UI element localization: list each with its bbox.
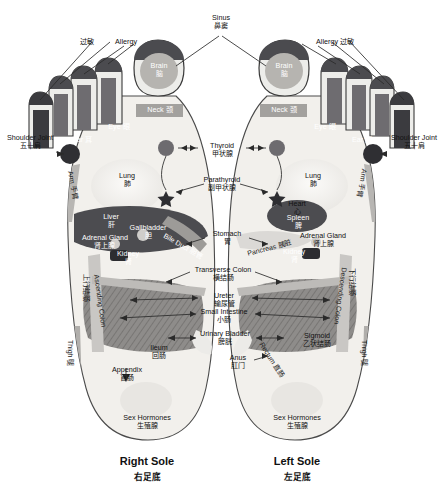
label-left-neck: Neck 颈 [264,106,304,114]
label-right-eye: Eye 眼 [102,123,136,131]
label-right-ascending-colon-cn: 上行结肠 [82,274,92,302]
label-left-sigmoid: Sigmoid乙状结肠 [290,332,344,349]
label-left-spleen: Spleen脾 [280,214,316,231]
right-thyroid-dot [158,140,174,156]
caption-left-sole: Left Sole左足底 [242,455,352,482]
label-transverse-colon: Transverse Colon横结肠 [185,266,261,283]
label-allergy-left: Allergy [104,38,148,46]
label-right-brain: Brain脑 [141,62,177,79]
label-right-appendix: Appendix盲肠 [104,366,150,383]
label-left-thigh: Thigh 腿 [360,340,370,366]
label-left-ear: Ear 耳 [346,136,378,144]
caption-right-sole: Right Sole右足底 [92,455,202,482]
label-parathyroid: Parathyroid副甲状腺 [192,176,252,193]
reflexology-foot-chart [0,0,443,504]
label-thyroid: Thyroid甲状腺 [198,142,246,159]
label-left-eye: Eye 眼 [308,123,342,131]
label-left-lung: Lung肺 [294,172,332,189]
label-stomach: Stomach胃 [204,230,250,247]
label-right-thigh: Thigh 腿 [66,340,76,366]
label-urinary-bladder: Urinary Bladder膀胱 [198,330,252,347]
label-allergy-left-cn: 过敏 [74,38,100,46]
label-right-lung: Lung肺 [108,172,146,189]
label-left-kidney: Kidney肾 [276,248,312,265]
label-right-sex-hormones: Sex Hormones生殖腺 [106,414,188,431]
label-right-ear: Ear 耳 [66,136,98,144]
label-left-brain: Brain脑 [266,62,302,79]
label-allergy-right: Allergy 过敏 [300,38,370,46]
label-right-ileum: Ileum回肠 [144,344,174,361]
label-left-descending-colon-cn: 下行结肠 [348,268,358,296]
label-small-intestine: Small Intestine小肠 [189,308,259,325]
label-left-sex-hormones: Sex Hormones生殖腺 [256,414,338,431]
label-right-neck: Neck 颈 [140,106,180,114]
label-anus: Anus肛门 [222,354,254,371]
label-left-shoulder-joint: Shoulder Joint五十肩 [388,134,440,151]
label-right-shoulder-joint: Shoulder Joint五十肩 [4,134,56,151]
label-sinus: Sinus鼻窦 [198,14,244,31]
left-thyroid-dot [269,140,285,156]
label-left-adrenal-gland: Adrenal Gland肾上腺 [300,232,346,249]
label-right-kidney: Kidney肾 [110,250,146,267]
